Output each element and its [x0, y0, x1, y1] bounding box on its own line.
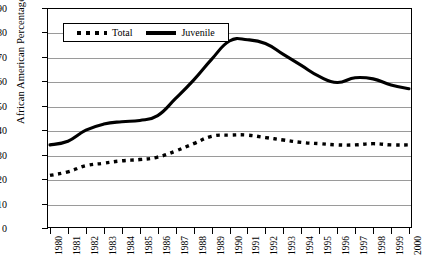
dotted-line-swatch-icon: [77, 31, 107, 35]
series-line-juvenile: [50, 39, 409, 145]
series-line-total: [50, 135, 409, 176]
legend-item-total: Total: [77, 27, 132, 38]
solid-line-swatch-icon: [146, 31, 176, 35]
legend-item-juvenile: Juvenile: [146, 27, 214, 38]
chart-legend: Total Juvenile: [63, 23, 229, 42]
chart-container: African American Percentage 010203040506…: [0, 0, 425, 262]
legend-label-juvenile: Juvenile: [181, 27, 214, 38]
legend-label-total: Total: [112, 27, 132, 38]
